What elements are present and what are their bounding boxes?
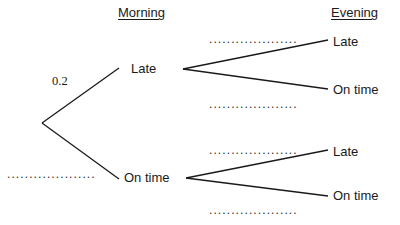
probability-blank-evening-late-late: .................... — [209, 32, 298, 46]
probability-blank-morning-ontime: .................... — [7, 167, 96, 181]
leaf-label-evening-late-late: Late — [333, 34, 358, 49]
probability-tree-diagram: Morning Evening 0.2 ....................… — [0, 0, 400, 225]
probability-blank-evening-late-ontime: .................... — [209, 97, 298, 111]
node-label-morning-late: Late — [131, 61, 156, 76]
branch-late-to-ontime — [183, 69, 328, 89]
probability-blank-evening-ontime-ontime: .................... — [209, 203, 298, 217]
column-header-morning: Morning — [118, 5, 165, 20]
leaf-label-evening-late-ontime: On time — [333, 82, 379, 97]
probability-blank-evening-ontime-late: .................... — [209, 143, 298, 157]
node-label-morning-ontime: On time — [124, 170, 170, 185]
leaf-label-evening-ontime-ontime: On time — [333, 188, 379, 203]
probability-label-morning-late: 0.2 — [52, 74, 68, 89]
column-header-evening: Evening — [331, 5, 378, 20]
branch-ontime-to-ontime — [186, 178, 328, 196]
leaf-label-evening-ontime-late: Late — [333, 144, 358, 159]
